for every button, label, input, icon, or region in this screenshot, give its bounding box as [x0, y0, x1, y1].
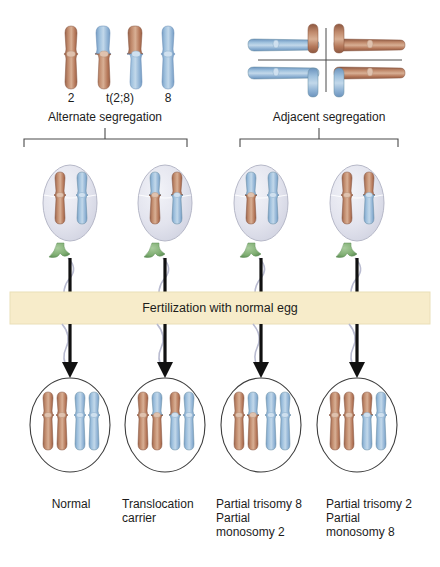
zygote-3-chromosome-4 — [279, 392, 291, 450]
zygote-4-chromosome-1 — [329, 392, 341, 450]
segregation-brackets — [24, 128, 398, 147]
chromosome-8 — [161, 26, 175, 89]
zygote-4-chromosome-3 — [361, 392, 373, 450]
chromosome-der-2-8-a — [95, 26, 111, 89]
zygote-cell-4 — [317, 378, 397, 472]
diagram-canvas: 2 t(2;8) 8 Alternate segregation Adjacen… — [0, 0, 440, 567]
quadrant-bottom-left — [248, 67, 319, 97]
zygote-3-chromosome-2 — [247, 392, 259, 450]
sperm-3-chromosome-blue — [267, 172, 279, 224]
zygote-cell-2 — [125, 378, 205, 472]
sperm-1-chromosome-blue — [76, 172, 88, 224]
sperm-2-chromosome-der-b — [171, 172, 183, 224]
zygote-2-chromosome-3 — [169, 392, 181, 450]
zygote-4-chromosome-4 — [375, 392, 387, 450]
zygote-3-chromosome-3 — [265, 392, 277, 450]
quadrant-top-right — [334, 24, 405, 53]
chromosome-label-8: 8 — [153, 91, 183, 105]
sperm-3-chromosome-der — [245, 172, 257, 224]
caption-adjacent-segregation: Adjacent segregation — [238, 110, 420, 124]
quadrant-bottom-right — [334, 67, 405, 97]
zygote-1-chromosome-1 — [42, 392, 54, 450]
zygote-cell-3 — [221, 378, 301, 472]
fertilization-arrows — [70, 258, 357, 292]
fertilization-banner-label: Fertilization with normal egg — [0, 301, 440, 315]
caption-alternate-segregation: Alternate segregation — [14, 110, 196, 124]
sperm-cells — [43, 165, 384, 304]
zygote-2-chromosome-1 — [137, 392, 149, 450]
zygote-4-chromosome-2 — [343, 392, 355, 450]
genetics-diagram-svg — [0, 0, 440, 567]
zygote-3-chromosome-1 — [233, 392, 245, 450]
post-fertilization-arrows — [62, 324, 357, 370]
zygote-2-chromosome-4 — [183, 392, 195, 450]
chromosome-der-2-8-b — [127, 26, 143, 89]
outcome-normal: Normal — [28, 497, 114, 511]
outcome-partial-trisomy-2: Partial trisomy 2 Partial monosomy 8 — [326, 497, 436, 539]
zygote-1-chromosome-2 — [56, 392, 68, 450]
sperm-2-chromosome-der-a — [149, 172, 161, 224]
zygote-2-chromosome-2 — [151, 392, 163, 450]
outcome-translocation-carrier: Translocation carrier — [122, 497, 218, 525]
chromosome-label-2: 2 — [56, 91, 86, 105]
outcome-partial-trisomy-8: Partial trisomy 8 Partial monosomy 2 — [216, 497, 322, 539]
zygote-1-chromosome-3 — [74, 392, 86, 450]
zygote-1-chromosome-4 — [88, 392, 100, 450]
sperm-1-chromosome-brown — [54, 172, 66, 224]
chromosome-2 — [64, 26, 78, 89]
sperm-4-chromosome-brown — [341, 172, 353, 224]
adjacent-segregation-quadrants — [248, 24, 405, 97]
alternate-segregation-chromosomes — [64, 26, 175, 89]
sperm-4-chromosome-der — [363, 172, 375, 224]
zygote-cells — [30, 378, 397, 472]
zygote-cell-1 — [30, 378, 110, 472]
quadrant-top-left — [248, 24, 319, 53]
chromosome-label-t28: t(2;8) — [90, 91, 150, 105]
